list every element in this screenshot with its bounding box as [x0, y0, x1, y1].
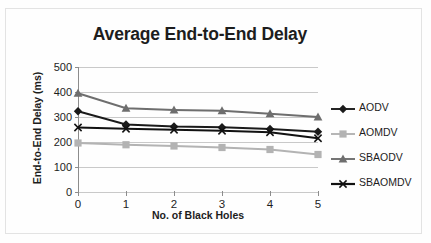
series-aodv: [74, 107, 322, 136]
legend-label: AODV: [359, 101, 389, 113]
data-point-diamond: [74, 107, 82, 115]
y-tick-label: 500: [54, 61, 72, 73]
data-point-square: [266, 146, 273, 153]
chart-figure: Average End-to-End Delay End-to-End Dela…: [0, 0, 431, 243]
legend-label: AOMDV: [359, 126, 398, 138]
x-axis-title: No. of Black Holes: [78, 209, 318, 221]
y-tick-label: 0: [66, 186, 72, 198]
y-tick-label: 300: [54, 111, 72, 123]
chart-title: Average End-to-End Delay: [55, 24, 345, 45]
legend-item-aomdv[interactable]: AOMDV: [330, 122, 430, 142]
chart-legend: AODVAOMDVSBAODVSBAOMDV: [330, 97, 430, 197]
series-sbaodv: [74, 89, 323, 121]
legend-item-sbaomdv[interactable]: SBAOMDV: [330, 172, 430, 192]
legend-swatch-square-icon: [330, 126, 356, 138]
y-tick-label: 100: [54, 161, 72, 173]
y-tick-label: 400: [54, 86, 72, 98]
y-tick-label: 200: [54, 136, 72, 148]
legend-swatch-triangle-icon: [330, 151, 356, 163]
series-plot: [78, 67, 318, 192]
series-line: [78, 93, 318, 117]
data-point-square: [170, 142, 177, 149]
data-point-square: [122, 141, 129, 148]
legend-label: SBAODV: [359, 151, 403, 163]
gridline: [78, 192, 318, 193]
series-aomdv: [74, 139, 321, 158]
legend-swatch-cross-icon: [330, 176, 356, 188]
legend-label: SBAOMDV: [359, 176, 412, 188]
y-axis-title: End-to-End Delay (ms): [31, 58, 43, 198]
data-point-square: [339, 130, 346, 137]
data-point-diamond: [339, 105, 347, 113]
data-point-diamond: [122, 120, 130, 128]
data-point-square: [74, 139, 81, 146]
data-point-square: [314, 151, 321, 158]
x-tick-mark: [318, 191, 319, 196]
legend-swatch-diamond-icon: [330, 101, 356, 113]
legend-item-sbaodv[interactable]: SBAODV: [330, 147, 430, 167]
legend-item-aodv[interactable]: AODV: [330, 97, 430, 117]
data-point-square: [218, 144, 225, 151]
series-line: [78, 143, 318, 155]
plot-area: 0100200300400500 012345: [78, 67, 318, 191]
